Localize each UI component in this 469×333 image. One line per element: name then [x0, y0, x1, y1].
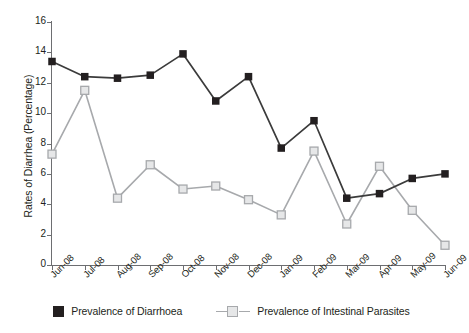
data-point-marker: [343, 194, 351, 202]
data-point-marker: [245, 196, 253, 204]
data-point-marker: [245, 73, 253, 81]
data-point-marker: [376, 162, 384, 170]
data-point-marker: [81, 73, 89, 81]
data-point-marker: [278, 144, 286, 152]
data-point-marker: [310, 147, 318, 155]
legend-label-intestinal-parasites: Prevalence of Intestinal Parasites: [257, 305, 409, 317]
data-point-marker: [146, 161, 154, 169]
data-point-marker: [48, 58, 56, 66]
data-point-marker: [409, 175, 417, 183]
data-point-marker: [212, 182, 220, 190]
data-point-marker: [48, 150, 56, 158]
legend-item-diarrhoea: Prevalence of Diarrhoea: [53, 305, 182, 317]
data-point-marker: [114, 74, 122, 82]
data-point-marker: [441, 170, 449, 178]
open-square-line-swatch-icon: [216, 306, 250, 317]
data-point-marker: [441, 241, 449, 249]
data-point-marker: [343, 220, 351, 228]
data-point-marker: [179, 50, 187, 58]
legend-item-intestinal-parasites: Prevalence of Intestinal Parasites: [216, 305, 409, 317]
data-point-marker: [147, 71, 155, 79]
data-point-marker: [81, 86, 89, 94]
legend-label-diarrhoea: Prevalence of Diarrhoea: [71, 305, 182, 317]
data-point-marker: [212, 97, 220, 105]
data-point-marker: [277, 211, 285, 219]
data-point-marker: [376, 190, 384, 198]
data-point-marker: [310, 117, 318, 125]
data-point-marker: [408, 206, 416, 214]
data-point-marker: [179, 185, 187, 193]
series-intestinal-parasites: [48, 86, 449, 249]
data-point-marker: [114, 194, 122, 202]
chart-legend: Prevalence of Diarrhoea Prevalence of In…: [0, 305, 463, 317]
filled-square-swatch-icon: [53, 306, 64, 317]
series-line: [52, 90, 445, 245]
